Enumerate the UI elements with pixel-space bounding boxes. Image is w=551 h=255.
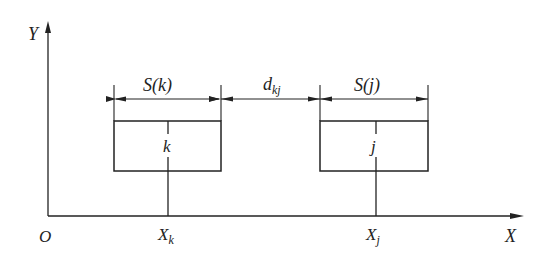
- position-xk-label: Xk: [157, 225, 174, 247]
- x-axis-arrow-icon: [510, 213, 524, 219]
- box-k: k: [114, 121, 221, 216]
- origin-label: O: [39, 227, 51, 246]
- y-axis-arrow-icon: [45, 21, 51, 33]
- box-j: j: [320, 121, 428, 216]
- dimension-s-k: S(k): [114, 75, 221, 102]
- y-axis-label: Y: [28, 24, 40, 44]
- box-k-label: k: [163, 137, 171, 156]
- s-j-label: S(j): [354, 75, 380, 96]
- box-j-label: j: [369, 137, 376, 156]
- x-axis: [48, 213, 524, 219]
- dimension-s-j: S(j): [320, 75, 428, 102]
- s-k-label: S(k): [143, 75, 172, 96]
- position-xj-label: Xj: [365, 225, 380, 247]
- dimension-d-kj: dkj: [221, 74, 320, 102]
- d-kj-label: dkj: [263, 74, 281, 97]
- spacing-diagram: Y X O k Xk j Xj S(k) dkj S(j: [0, 0, 551, 255]
- y-axis: [45, 21, 51, 216]
- x-axis-label: X: [504, 226, 517, 246]
